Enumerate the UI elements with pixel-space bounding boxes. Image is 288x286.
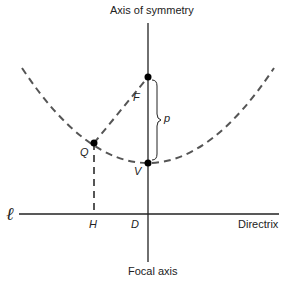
h-label: H [89,218,97,230]
directrix-label: Directrix [238,218,278,230]
brace-p [152,80,161,160]
f-label: F [133,91,140,103]
segment-qf [94,77,148,143]
point-f [145,74,152,81]
v-label: V [134,165,141,177]
q-label: Q [80,146,89,158]
d-label: D [131,218,139,230]
axis-of-symmetry-label: Axis of symmetry [110,4,194,16]
focal-axis-label: Focal axis [128,265,178,277]
ell-label: ℓ [6,203,14,225]
point-v [145,160,152,167]
p-label: p [164,112,170,124]
point-q [91,140,98,147]
parabola-diagram [0,0,288,286]
